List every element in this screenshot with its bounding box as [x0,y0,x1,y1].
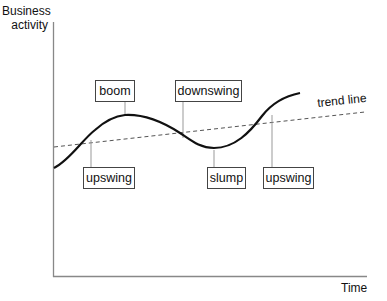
boom-label: boom [95,80,135,102]
y-axis-label: Business activity [2,4,48,32]
downswing-label: downswing [175,80,242,102]
upswing-label-2: upswing [263,167,314,189]
x-axis-label: Time [341,281,367,295]
slump-label: slump [207,167,246,189]
trend-line [54,112,365,147]
business-cycle-diagram [0,0,387,301]
upswing-label-1: upswing [83,167,135,189]
